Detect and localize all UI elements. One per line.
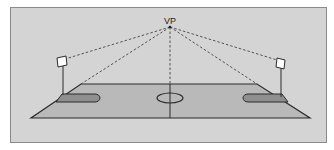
left-key [56,94,100,102]
left-backboard [57,56,67,67]
perspective-lines [65,27,277,84]
vanishing-point-label: VP [164,16,176,26]
vanishing-point-dot [169,26,172,29]
perspective-diagram: VP [0,0,334,150]
right-backboard [276,58,285,69]
